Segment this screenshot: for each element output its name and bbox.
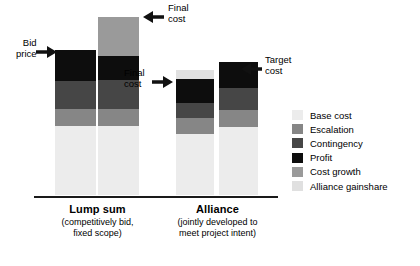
annotation-bid-price: Bid price — [16, 38, 37, 59]
legend-swatch — [292, 124, 303, 134]
segment-alliance-gainshare — [176, 70, 214, 79]
group-subtitle-lump-sum-line2: fixed scope) — [30, 228, 165, 239]
x-axis-line — [34, 196, 278, 198]
segment-escalation — [176, 118, 214, 134]
bar-alliance-target-cost — [219, 62, 258, 195]
annotation-lump-final-cost: Final cost — [168, 3, 189, 24]
segment-contingency — [55, 81, 96, 109]
annotation-alliance-final-cost: Final cost — [124, 68, 145, 89]
legend-label: Cost growth — [310, 166, 361, 177]
group-subtitle-alliance: (jointly developed to meet project inten… — [150, 217, 285, 238]
stacked-bar-chart: Bid price Final cost Final cost Target c… — [0, 0, 420, 266]
bar-alliance-final-cost — [176, 70, 214, 195]
legend-item: Profit — [292, 151, 388, 165]
segment-escalation — [55, 109, 96, 126]
legend-item: Base cost — [292, 108, 388, 122]
segment-cost-growth — [98, 17, 139, 56]
segment-escalation — [219, 110, 258, 127]
annotation-alliance-final-cost-line2: cost — [124, 79, 145, 90]
legend-swatch — [292, 138, 303, 148]
bar-lump-sum-final-cost — [98, 17, 139, 195]
annotation-lump-final-cost-line2: cost — [168, 14, 189, 25]
segment-base-cost — [219, 127, 258, 195]
group-title-lump-sum: Lump sum — [30, 203, 165, 216]
chart-legend: Base costEscalationContingencyProfitCost… — [292, 108, 388, 193]
segment-profit — [176, 79, 214, 103]
bar-lump-sum-bid-price — [55, 50, 96, 195]
arrow-left-alliance-target-cost — [240, 62, 262, 76]
annotation-alliance-target-cost: Target cost — [265, 55, 291, 76]
legend-item: Cost growth — [292, 165, 388, 179]
group-subtitle-lump-sum-line1: (competitively bid, — [30, 217, 165, 228]
segment-base-cost — [98, 126, 139, 195]
group-label-alliance: Alliance (jointly developed to meet proj… — [150, 203, 285, 238]
legend-item: Alliance gainshare — [292, 179, 388, 193]
annotation-bid-price-line2: price — [16, 49, 37, 60]
segment-profit — [55, 50, 96, 81]
legend-swatch — [292, 167, 303, 177]
legend-label: Contingency — [310, 138, 363, 149]
group-title-alliance: Alliance — [150, 203, 285, 216]
arrow-left-lump-final-cost — [142, 10, 164, 24]
annotation-alliance-target-cost-line2: cost — [265, 66, 291, 77]
segment-contingency — [219, 88, 258, 110]
legend-swatch — [292, 110, 303, 120]
segment-base-cost — [55, 126, 96, 195]
legend-label: Profit — [310, 152, 332, 163]
segment-base-cost — [176, 134, 214, 195]
group-subtitle-lump-sum: (competitively bid, fixed scope) — [30, 217, 165, 238]
arrow-right-alliance-final-cost — [152, 75, 174, 89]
legend-swatch — [292, 181, 303, 191]
segment-contingency — [176, 103, 214, 118]
legend-item: Escalation — [292, 122, 388, 136]
legend-label: Escalation — [310, 124, 354, 135]
legend-label: Alliance gainshare — [310, 181, 388, 192]
group-label-lump-sum: Lump sum (competitively bid, fixed scope… — [30, 203, 165, 238]
legend-swatch — [292, 153, 303, 163]
arrow-right-bid-price — [36, 45, 58, 59]
group-subtitle-alliance-line1: (jointly developed to — [150, 217, 285, 228]
legend-label: Base cost — [310, 110, 352, 121]
segment-escalation — [98, 109, 139, 126]
group-subtitle-alliance-line2: meet project intent) — [150, 228, 285, 239]
legend-item: Contingency — [292, 136, 388, 150]
